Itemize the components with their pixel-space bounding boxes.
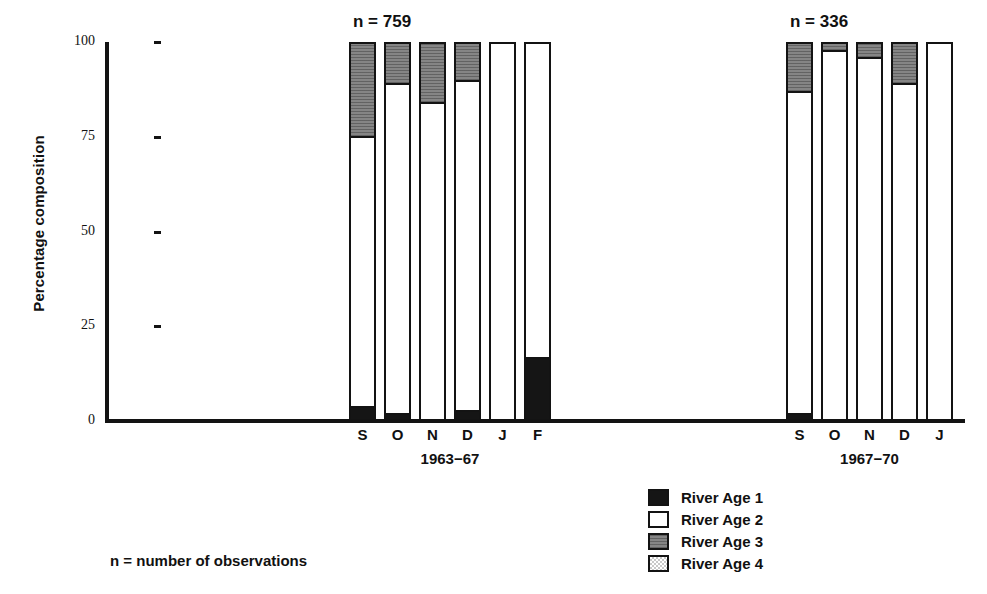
stacked-bar [349, 42, 376, 421]
legend-item: River Age 4 [648, 553, 763, 573]
footnote: n = number of observations [110, 552, 307, 569]
bar-segment [351, 408, 374, 419]
x-axis-group-title: 1963−67 [370, 450, 530, 467]
y-tick-mark [154, 136, 161, 139]
bar-segment [788, 415, 811, 419]
sample-size-annotation: n = 759 [353, 12, 411, 32]
bar-column [786, 42, 813, 421]
legend-item-label: River Age 2 [681, 511, 763, 528]
legend-item-label: River Age 1 [681, 489, 763, 506]
y-tick-label: 100 [55, 34, 95, 48]
stacked-bar [926, 42, 953, 421]
bar-segment [386, 415, 409, 419]
bar-segment [858, 44, 881, 59]
bar-segment [491, 44, 514, 419]
stacked-bar [454, 42, 481, 421]
bar-segment [858, 59, 881, 419]
bar-segment [928, 44, 951, 419]
bar-column [891, 42, 918, 421]
bar-segment [788, 44, 811, 93]
bar-segment [893, 44, 916, 85]
bar-segment [456, 82, 479, 412]
stacked-bar [856, 42, 883, 421]
x-axis-month-label: S [346, 426, 380, 443]
x-axis-month-label: N [853, 426, 887, 443]
bar-column [454, 42, 481, 421]
x-axis-month-label: J [486, 426, 520, 443]
stacked-bar [891, 42, 918, 421]
legend-item: River Age 3 [648, 531, 763, 551]
x-axis-group-title: 1967−70 [790, 450, 950, 467]
y-axis-title: Percentage composition [30, 94, 47, 354]
legend-swatch-icon [648, 489, 669, 506]
bar-segment [386, 44, 409, 85]
legend-swatch-icon [648, 555, 669, 572]
bar-segment [456, 44, 479, 82]
stacked-bar [384, 42, 411, 421]
legend: River Age 1River Age 2River Age 3River A… [648, 487, 763, 575]
stacked-bar [821, 42, 848, 421]
bar-column [419, 42, 446, 421]
x-axis-month-label: J [923, 426, 957, 443]
bar-column [489, 42, 516, 421]
x-axis-month-label: D [451, 426, 485, 443]
y-tick-label: 0 [55, 413, 95, 427]
bar-column [524, 42, 551, 421]
x-axis-month-label: O [818, 426, 852, 443]
sample-size-annotation: n = 336 [790, 12, 848, 32]
bar-segment [421, 44, 444, 104]
y-tick-mark [154, 420, 161, 423]
bar-segment [526, 44, 549, 359]
bar-segment [456, 412, 479, 420]
y-tick-label: 25 [55, 318, 95, 332]
bar-column [349, 42, 376, 421]
legend-item-label: River Age 4 [681, 555, 763, 572]
x-axis-month-label: F [521, 426, 555, 443]
stacked-bar [524, 42, 551, 421]
x-axis-month-label: O [381, 426, 415, 443]
x-axis-month-label: S [783, 426, 817, 443]
bar-segment [823, 52, 846, 420]
legend-swatch-icon [648, 533, 669, 550]
legend-item-label: River Age 3 [681, 533, 763, 550]
bar-column [384, 42, 411, 421]
y-tick-mark [154, 325, 161, 328]
bar-segment [351, 138, 374, 408]
bar-segment [893, 85, 916, 419]
bar-segment [526, 359, 549, 419]
stacked-bar [489, 42, 516, 421]
y-tick-label: 50 [55, 224, 95, 238]
bar-segment [386, 85, 409, 415]
chart-figure: 1007550250 Percentage composition SONDJF… [0, 0, 987, 594]
bar-column [926, 42, 953, 421]
y-tick-mark [154, 231, 161, 234]
bar-segment [351, 44, 374, 138]
y-axis-line [105, 42, 109, 423]
legend-item: River Age 2 [648, 509, 763, 529]
x-axis-month-label: D [888, 426, 922, 443]
legend-swatch-icon [648, 511, 669, 528]
y-tick-label: 75 [55, 129, 95, 143]
y-tick-mark [154, 41, 161, 44]
bar-column [821, 42, 848, 421]
x-axis-month-label: N [416, 426, 450, 443]
bar-segment [823, 44, 846, 52]
bar-column [856, 42, 883, 421]
bar-segment [788, 93, 811, 416]
stacked-bar [786, 42, 813, 421]
legend-item: River Age 1 [648, 487, 763, 507]
bar-segment [421, 104, 444, 419]
stacked-bar [419, 42, 446, 421]
